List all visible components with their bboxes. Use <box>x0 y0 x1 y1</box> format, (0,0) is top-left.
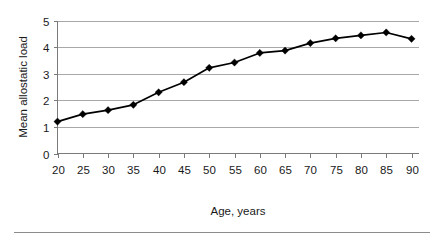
y-tick-label: 5 <box>43 16 49 28</box>
x-tick-label: 60 <box>254 164 267 176</box>
data-point-marker <box>79 111 86 118</box>
data-point-marker <box>408 35 415 42</box>
gridlines <box>58 22 419 128</box>
data-point-marker <box>104 107 111 114</box>
y-tick-label: 3 <box>43 69 49 81</box>
y-axis-title: Mean allostatic load <box>17 36 29 138</box>
data-point-marker <box>307 40 314 47</box>
data-point-marker <box>231 59 238 66</box>
x-axis-title: Age, years <box>211 205 266 217</box>
y-tick-label: 4 <box>43 42 50 54</box>
x-tick-label: 50 <box>203 164 216 176</box>
x-tick-label: 20 <box>52 164 65 176</box>
x-tick-label: 35 <box>127 164 140 176</box>
x-tick-label: 65 <box>279 164 292 176</box>
chart-figure: 012345 202530354045505560657075808590 Me… <box>0 0 444 242</box>
x-axis-ticks <box>59 154 413 158</box>
line-chart: 012345 202530354045505560657075808590 Me… <box>0 0 444 242</box>
x-tick-label: 80 <box>355 164 368 176</box>
data-point-marker <box>54 118 61 125</box>
y-tick-label: 2 <box>43 95 49 107</box>
x-tick-label: 25 <box>77 164 90 176</box>
data-point-marker <box>383 29 390 36</box>
data-point-markers <box>54 29 415 125</box>
series-line-mean-allostatic-load <box>58 32 412 121</box>
y-axis-ticks <box>54 22 58 155</box>
x-tick-label: 85 <box>380 164 393 176</box>
y-tick-label: 0 <box>43 149 49 161</box>
data-point-marker <box>206 64 213 71</box>
x-tick-label: 90 <box>406 164 419 176</box>
x-tick-label: 55 <box>229 164 242 176</box>
x-tick-label: 45 <box>178 164 191 176</box>
data-point-marker <box>155 89 162 96</box>
x-tick-label: 30 <box>102 164 115 176</box>
data-point-marker <box>357 32 364 39</box>
x-tick-label: 70 <box>304 164 317 176</box>
data-point-marker <box>332 35 339 42</box>
data-point-marker <box>281 47 288 54</box>
y-axis-tick-labels: 012345 <box>43 16 50 161</box>
data-point-marker <box>180 79 187 86</box>
x-tick-label: 75 <box>330 164 343 176</box>
data-point-marker <box>130 101 137 108</box>
x-tick-label: 40 <box>153 164 166 176</box>
y-tick-label: 1 <box>43 122 49 134</box>
data-point-marker <box>256 49 263 56</box>
x-axis-tick-labels: 202530354045505560657075808590 <box>52 164 419 176</box>
footer-divider <box>14 232 430 233</box>
